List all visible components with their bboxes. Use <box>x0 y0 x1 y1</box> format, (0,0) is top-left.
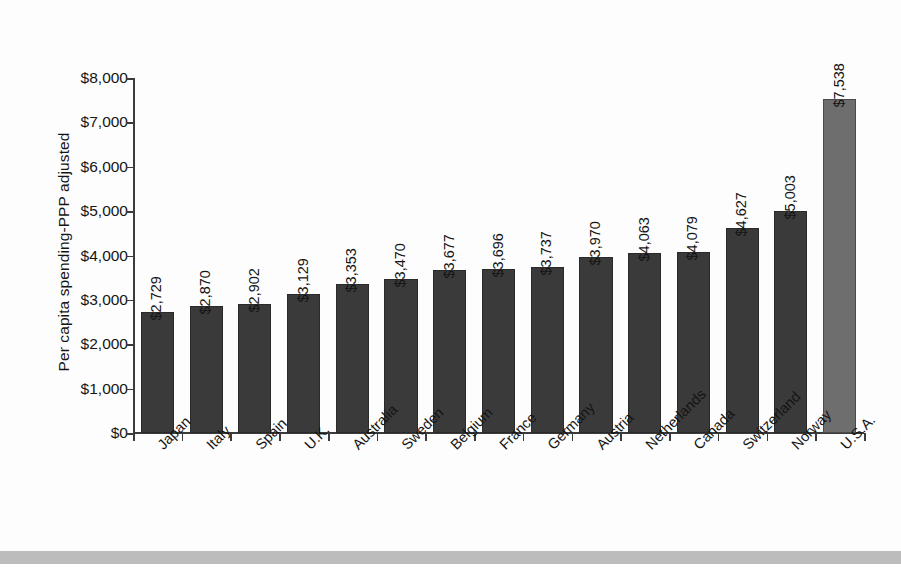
bar-netherlands[interactable] <box>628 253 661 433</box>
x-axis-label-u-s-a: U.S.A. <box>838 442 848 452</box>
bar-value-label: $3,353 <box>344 248 359 292</box>
y-axis-tick-label: $4,000 <box>48 248 128 264</box>
x-axis-label-france: France <box>497 442 507 452</box>
x-axis-label-spain: Spain <box>253 442 263 452</box>
bar-value-label: $3,129 <box>295 258 310 302</box>
y-axis-tick-mark <box>126 300 134 302</box>
x-axis-label-norway: Norway <box>789 442 799 452</box>
x-axis-tick-mark <box>133 433 135 441</box>
x-axis-label-germany: Germany <box>545 442 555 452</box>
bar-value-label: $5,003 <box>782 175 797 219</box>
y-axis-tick-mark <box>126 211 134 213</box>
y-axis-tick-mark <box>126 122 134 124</box>
bar-value-label: $2,902 <box>246 268 261 312</box>
y-axis-tick-mark <box>126 344 134 346</box>
bar-value-label: $4,063 <box>636 217 651 261</box>
x-axis-label-u-k: U.K. <box>302 442 312 452</box>
y-axis-tick-mark <box>126 167 134 169</box>
y-axis-tick-labels: $8,000$7,000$6,000$5,000$4,000$3,000$2,0… <box>42 0 128 569</box>
x-axis-label-netherlands: Netherlands <box>643 442 653 452</box>
bar-australia[interactable] <box>336 284 369 433</box>
x-axis-label-austria: Austria <box>594 442 604 452</box>
bar-value-label: $3,696 <box>490 233 505 277</box>
y-axis-tick-label: $2,000 <box>48 336 128 352</box>
bar-spain[interactable] <box>238 304 271 433</box>
bar-value-label: $4,627 <box>734 192 749 236</box>
y-axis-tick-mark <box>126 78 134 80</box>
bar-switzerland[interactable] <box>726 228 759 433</box>
footer-band-edge <box>0 564 901 569</box>
x-axis-label-australia: Australia <box>350 442 360 452</box>
bar-value-label: $3,970 <box>587 221 602 265</box>
y-axis-tick-label: $7,000 <box>48 114 128 130</box>
chart-page: Per capita spending-PPP adjusted $8,000$… <box>0 0 901 569</box>
bar-japan[interactable] <box>141 312 174 433</box>
x-axis-label-sweden: Sweden <box>399 442 409 452</box>
y-axis-tick-label: $8,000 <box>48 70 128 86</box>
bar-value-label: $3,470 <box>393 243 408 287</box>
bar-italy[interactable] <box>190 306 223 433</box>
y-axis-tick-label: $6,000 <box>48 159 128 175</box>
y-axis-tick-mark <box>126 256 134 258</box>
x-axis-label-belgium: Belgium <box>448 442 458 452</box>
bar-value-label: $3,677 <box>441 234 456 278</box>
bar-chart: Per capita spending-PPP adjusted $8,000$… <box>0 0 901 569</box>
bar-value-label: $4,079 <box>685 216 700 260</box>
y-axis-tick-mark <box>126 389 134 391</box>
bar-u-s-a[interactable] <box>823 99 856 433</box>
footer-band <box>0 551 901 564</box>
bar-value-label: $2,729 <box>149 276 164 320</box>
x-axis-label-canada: Canada <box>691 442 701 452</box>
x-axis-label-japan: Japan <box>155 442 165 452</box>
x-axis-label-italy: Italy <box>204 442 214 452</box>
bar-value-label: $3,737 <box>539 231 554 275</box>
y-axis-tick-label: $5,000 <box>48 203 128 219</box>
bar-germany[interactable] <box>531 267 564 433</box>
x-axis-label-switzerland: Switzerland <box>740 442 750 452</box>
y-axis-tick-label: $1,000 <box>48 381 128 397</box>
bar-value-label: $7,538 <box>831 63 846 107</box>
bar-u-k[interactable] <box>287 294 320 433</box>
bar-value-label: $2,870 <box>198 270 213 314</box>
y-axis-tick-label: $0 <box>48 425 128 441</box>
y-axis-tick-label: $3,000 <box>48 292 128 308</box>
